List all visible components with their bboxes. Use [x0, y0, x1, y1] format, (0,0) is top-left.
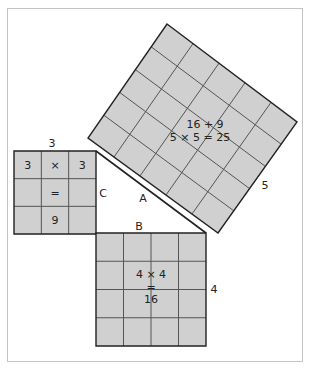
hypotenuse-a-label: A [139, 192, 147, 205]
large-square-side-label: 5 [262, 179, 269, 192]
pythagoras-diagram: 3×3=9 16 + 9 5 × 5 = 25 4 × 4 = 16 3 C A… [0, 0, 311, 371]
small-square-cell-text: × [50, 159, 59, 172]
medium-square-result-text: 16 [144, 293, 158, 306]
small-square-cell-text: 9 [52, 214, 59, 227]
small-square-3x3: 3×3=9 [14, 151, 96, 234]
small-square-cell-text: 3 [24, 159, 31, 172]
medium-square-side-label: 4 [211, 283, 218, 296]
small-square-cell-text: 3 [79, 159, 86, 172]
leg-c-label: C [99, 187, 107, 200]
large-square-product-text: 5 × 5 = 25 [170, 131, 230, 144]
small-square-cell-text: = [50, 187, 59, 200]
large-square-sum-text: 16 + 9 [186, 118, 223, 131]
medium-square-product-text: 4 × 4 [136, 268, 166, 281]
small-square-side-label: 3 [49, 137, 56, 150]
leg-b-label: B [135, 220, 143, 233]
